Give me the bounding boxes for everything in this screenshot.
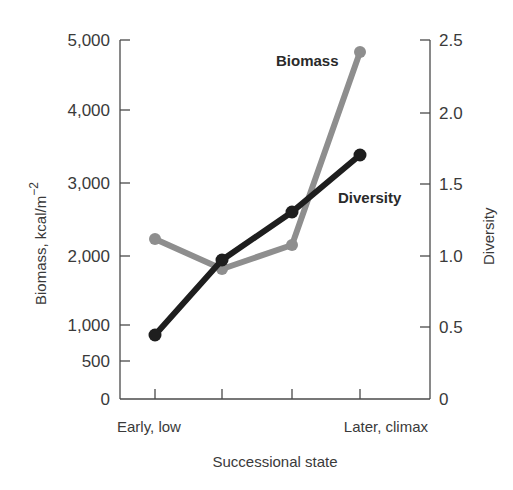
y-axis-title: Biomass, kcal/m−2 [27,182,49,305]
series-biomass: Biomass [149,46,366,275]
y-tick-label: 0 [101,390,110,409]
series-label-biomass: Biomass [276,52,339,69]
y2-tick-label: 0 [439,390,448,409]
data-point [286,206,299,219]
y-tick-label: 5,000 [67,31,110,50]
y-tick-label: 4,000 [67,101,110,120]
data-point [354,149,367,162]
y2-tick-label: 0.5 [439,318,463,337]
data-point [286,239,298,251]
y-tick-label: 500 [82,352,110,371]
data-point [149,233,161,245]
x-axis: Early, low Later, climax Successional st… [117,389,430,470]
y-tick-label: 1,000 [67,316,110,335]
chart: 5,000 4,000 3,000 2,000 1,000 500 0 Biom… [0,0,513,490]
right-axis: 2.5 2.0 1.5 1.0 0.5 0 Diversity [420,31,497,409]
data-point [354,46,366,58]
series-label-diversity: Diversity [338,189,402,206]
y2-axis-title: Diversity [480,207,497,265]
y2-tick-label: 2.5 [439,31,463,50]
data-point [149,329,162,342]
y-tick-label: 3,000 [67,174,110,193]
x-tick-label-last: Later, climax [344,418,429,435]
x-tick-label-first: Early, low [117,418,181,435]
y2-tick-label: 1.5 [439,175,463,194]
y2-tick-label: 1.0 [439,247,463,266]
left-axis: 5,000 4,000 3,000 2,000 1,000 500 0 Biom… [27,31,130,409]
data-point [216,254,229,267]
x-axis-title: Successional state [212,453,337,470]
y-tick-label: 2,000 [67,247,110,266]
series-diversity: Diversity [149,149,403,342]
y2-tick-label: 2.0 [439,104,463,123]
